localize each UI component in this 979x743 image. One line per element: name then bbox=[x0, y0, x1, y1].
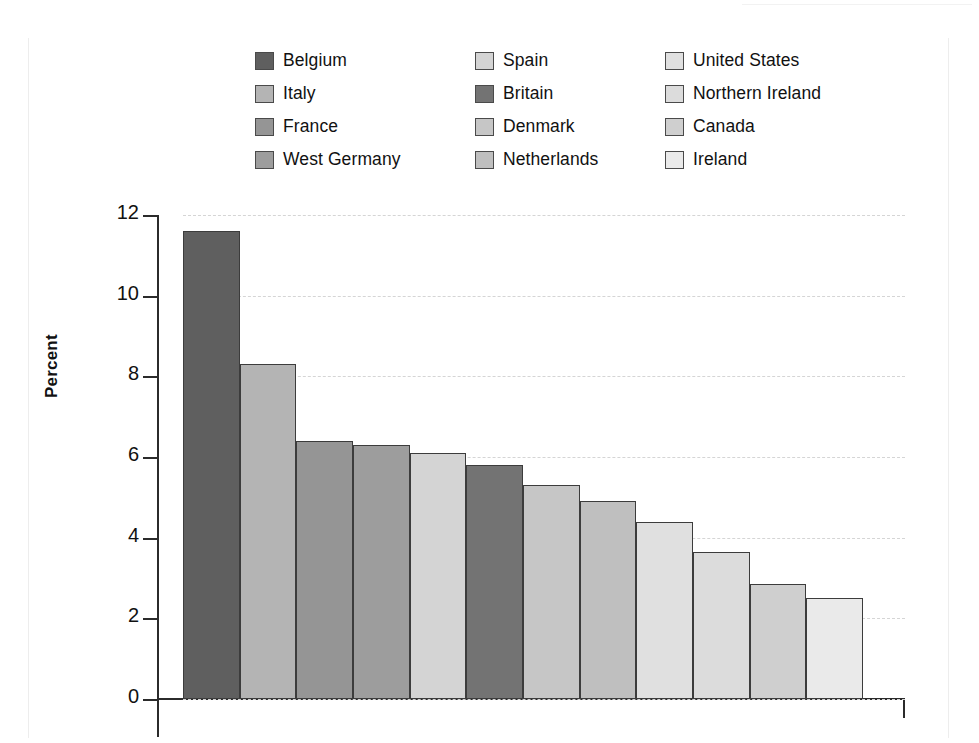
y-tick-mark-12 bbox=[143, 215, 157, 217]
bar-netherlands bbox=[580, 501, 637, 699]
y-tick-mark-0 bbox=[143, 699, 157, 701]
y-tick-mark-8 bbox=[143, 376, 157, 378]
y-tick-label-6: 6 bbox=[128, 444, 139, 464]
y-axis-spine bbox=[157, 215, 159, 737]
y-tick-label-12: 12 bbox=[117, 202, 139, 222]
bar-italy bbox=[240, 364, 297, 699]
y-tick-mark-6 bbox=[143, 457, 157, 459]
y-tick-mark-2 bbox=[143, 618, 157, 620]
bar-denmark bbox=[523, 485, 580, 699]
y-tick-mark-4 bbox=[143, 538, 157, 540]
bar-france bbox=[296, 441, 353, 699]
gridline-0 bbox=[183, 699, 905, 700]
chart-page: BelgiumSpainUnited StatesItalyBritainNor… bbox=[0, 0, 979, 743]
bar-northern-ireland bbox=[693, 552, 750, 699]
plot-wrapper: Percent 121086420 bbox=[0, 0, 979, 743]
y-tick-mark-10 bbox=[143, 296, 157, 298]
x-axis-end-tick bbox=[903, 698, 905, 718]
bar-spain bbox=[410, 453, 467, 699]
bar-west-germany bbox=[353, 445, 410, 699]
bar-canada bbox=[750, 584, 807, 699]
bar-united-states bbox=[636, 522, 693, 699]
bar-belgium bbox=[183, 231, 240, 699]
y-axis-label: Percent bbox=[42, 278, 62, 398]
y-tick-label-4: 4 bbox=[128, 525, 139, 545]
y-tick-label-0: 0 bbox=[128, 686, 139, 706]
y-tick-label-2: 2 bbox=[128, 605, 139, 625]
y-tick-label-10: 10 bbox=[117, 283, 139, 303]
bar-series bbox=[183, 215, 863, 699]
bar-britain bbox=[466, 465, 523, 699]
y-tick-label-8: 8 bbox=[128, 363, 139, 383]
bar-ireland bbox=[806, 598, 863, 699]
